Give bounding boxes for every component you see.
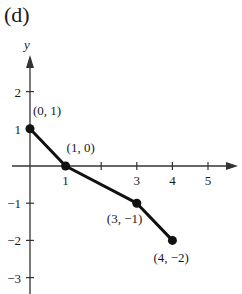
data-line	[30, 129, 172, 241]
x-tick-label: 4	[169, 173, 176, 188]
data-point	[61, 162, 70, 171]
point-label: (0, 1)	[33, 103, 61, 118]
y-tick-label: 1	[15, 122, 22, 137]
y-axis-label: y	[22, 37, 30, 52]
y-tick-label: −2	[7, 233, 21, 248]
x-axis-arrow-icon	[226, 162, 238, 170]
data-point	[26, 124, 35, 133]
chart: y134521−1−2−3(0, 1)(1, 0)(3, −1)(4, −2)	[0, 0, 242, 294]
point-label: (1, 0)	[67, 140, 95, 155]
data-point	[168, 236, 177, 245]
point-label: (3, −1)	[107, 211, 143, 226]
y-axis-arrow-icon	[26, 55, 34, 68]
point-label: (4, −2)	[153, 250, 189, 265]
y-tick-label: −1	[7, 196, 21, 211]
y-tick-label: 2	[15, 85, 22, 100]
x-tick-label: 1	[62, 173, 69, 188]
x-tick-label: 3	[134, 173, 141, 188]
x-tick-label: 5	[205, 173, 212, 188]
y-tick-label: −3	[7, 271, 21, 286]
data-point	[132, 199, 141, 208]
